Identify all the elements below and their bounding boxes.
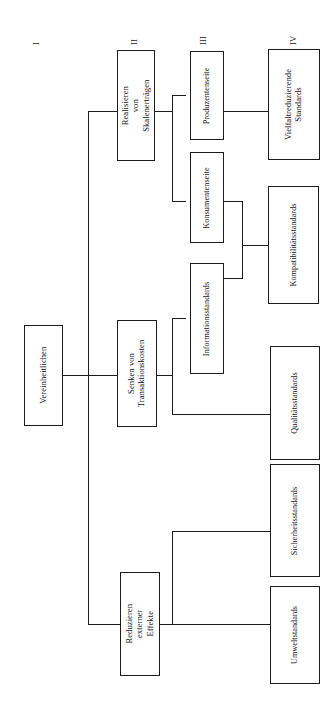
node-label: Realisieren von Skalenerträgen (120, 79, 151, 131)
edge-external-to-environment (172, 624, 270, 625)
edge-external-to-safety (172, 531, 270, 532)
node-produzentenseite[interactable]: Produzentenseite (190, 51, 224, 140)
edge-transaction-costs-stem (157, 375, 173, 376)
node-qualitaetsstandards[interactable]: Qualitätsstandards (270, 346, 320, 460)
edge-join-to-compatibility (242, 245, 268, 246)
node-label: Produzentenseite (202, 67, 212, 124)
edge-transaction-costs-to-information (172, 318, 186, 319)
edge-consumer-stem (224, 201, 243, 202)
level-label-iv: IV (289, 31, 299, 45)
edge-external-effects-spine (172, 531, 173, 625)
level-label-ii: II (130, 31, 140, 45)
edge-root-spine (88, 111, 89, 624)
node-konsumentenseite[interactable]: Konsumentenseite (190, 152, 224, 243)
level-label-iii: III (199, 31, 209, 45)
node-label: Reduzieren externer Effekte (124, 604, 155, 644)
node-sicherheitsstandards[interactable]: Sicherheitsstandards (270, 464, 320, 577)
node-label: Umweltstandards (290, 606, 300, 664)
node-label: Vielfaltreduzierende Standards (284, 69, 305, 140)
node-label: Sicherheitsstandards (290, 486, 300, 554)
edge-transaction-costs-to-quality (172, 414, 270, 415)
node-umweltstandards[interactable]: Umweltstandards (270, 586, 320, 684)
node-label: Qualitätsstandards (290, 372, 300, 433)
node-label: Kompatibilitätsstandards (289, 203, 299, 286)
node-label: Vereinheitlichen (38, 347, 48, 404)
edge-root-stem (63, 375, 88, 376)
level-label-i: I (32, 31, 42, 45)
node-label: Informationsstandards (202, 281, 212, 355)
node-vielfaltreduzierende-standards[interactable]: Vielfaltreduzierende Standards (268, 49, 320, 160)
node-informationsstandards[interactable]: Informationsstandards (190, 263, 224, 374)
node-reduzieren-externer-effekte[interactable]: Reduzieren externer Effekte (120, 572, 160, 676)
edge-compat-join-spine (242, 201, 243, 279)
node-label: Konsumentenseite (202, 167, 212, 228)
edge-root-to-transaction-costs (88, 375, 117, 376)
edge-scale-returns-stem (155, 111, 173, 112)
edge-root-to-scale-returns (88, 111, 117, 112)
edge-transaction-costs-spine (172, 318, 173, 415)
node-realisieren-von-skalenertraegen[interactable]: Realisieren von Skalenerträgen (117, 50, 155, 161)
edge-root-to-external-effects (88, 624, 120, 625)
edge-scale-returns-to-consumer (172, 201, 186, 202)
edge-information-stem (224, 278, 243, 279)
node-kompatibilitaetsstandards[interactable]: Kompatibilitätsstandards (268, 186, 319, 304)
diagram-canvas: I II III IV Vereinheitlichen Realisieren… (0, 0, 327, 718)
edge-scale-returns-spine (172, 95, 173, 202)
node-senken-von-transaktionskosten[interactable]: Senken von Transaktionskosten (117, 320, 157, 427)
node-vereinheitlichen[interactable]: Vereinheitlichen (24, 325, 63, 426)
edge-producer-to-variety (224, 111, 268, 112)
edge-scale-returns-to-producer (172, 95, 186, 96)
node-label: Senken von Transaktionskosten (127, 340, 148, 407)
